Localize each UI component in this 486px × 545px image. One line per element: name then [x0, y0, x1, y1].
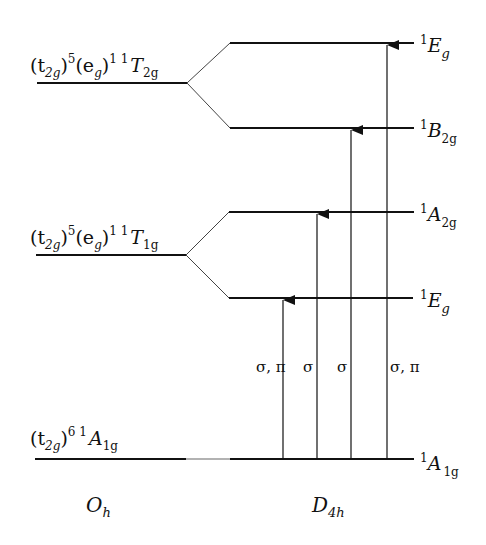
d4h-label-A2g: 1A2g	[420, 202, 457, 230]
d4h-label-Eg-lower: 1Eg	[420, 288, 450, 316]
correlation-line	[186, 212, 229, 255]
polarization-label: σ, π	[390, 358, 420, 376]
symmetry-label-d4h: D4h	[311, 493, 345, 520]
d4h-label-B2g: 1B2g	[420, 118, 457, 146]
oh-label-T2g: (t2g)5(eg)1 1T2g	[30, 52, 159, 80]
diagram-canvas: σ, π σ σ σ, π (t2g)5(eg)1 1T2g (t2g)5(eg…	[0, 0, 486, 545]
correlation-line	[186, 255, 229, 298]
oh-label-A1g: (t2g)6 1A1g	[30, 425, 118, 453]
correlation-line	[187, 43, 230, 83]
d4h-label-A1g: 1A1g	[420, 451, 459, 479]
polarization-label: σ	[303, 358, 313, 376]
energy-level-diagram: σ, π σ σ σ, π (t2g)5(eg)1 1T2g (t2g)5(eg…	[0, 0, 486, 545]
polarization-label: σ	[337, 358, 347, 376]
oh-label-T1g: (t2g)5(eg)1 1T1g	[30, 224, 159, 252]
polarization-label: σ, π	[256, 358, 286, 376]
correlation-line	[187, 83, 230, 128]
symmetry-label-oh: Oh	[86, 493, 111, 520]
d4h-label-Eg-upper: 1Eg	[420, 33, 450, 61]
